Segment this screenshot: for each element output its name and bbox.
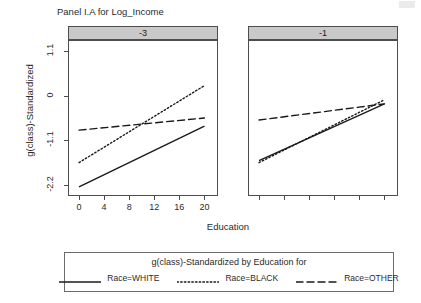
y-tick-label: 1.1 [45, 37, 55, 63]
series-line [79, 126, 204, 187]
x-axis-label: Education [168, 221, 288, 232]
panel-strip-header-2: -1 [248, 26, 398, 40]
legend-key-dotted [177, 273, 219, 283]
legend-key-dashed [296, 273, 338, 283]
x-tick-mark [154, 196, 155, 200]
panel-1: -3 [68, 26, 218, 196]
legend-item: Race=WHITE [59, 273, 159, 283]
panel-strip-label: -3 [139, 29, 147, 38]
x-tick-label: 0 [69, 202, 89, 212]
legend-label: Race=WHITE [107, 273, 159, 283]
legend: g(class)-Standardized by Education for R… [64, 252, 394, 292]
x-tick-label: 20 [194, 202, 214, 212]
panel-2: -1 [248, 26, 398, 196]
panel-strip-header-1: -3 [68, 26, 218, 40]
y-tick-label: -1.1 [45, 126, 55, 152]
x-tick-mark [384, 196, 385, 200]
legend-label: Race=BLACK [225, 273, 278, 283]
series-line [259, 104, 384, 161]
legend-item: Race=BLACK [177, 273, 278, 283]
legend-item: Race=OTHER [296, 273, 399, 283]
legend-items: Race=WHITERace=BLACKRace=OTHER [65, 273, 393, 283]
x-tick-mark [104, 196, 105, 200]
series-line [79, 86, 204, 163]
x-tick-mark [309, 196, 310, 200]
x-tick-label: 4 [94, 202, 114, 212]
x-tick-mark [334, 196, 335, 200]
x-tick-mark [79, 196, 80, 200]
plot-area-1 [68, 40, 218, 196]
x-tick-mark [179, 196, 180, 200]
x-tick-mark [284, 196, 285, 200]
x-tick-mark [359, 196, 360, 200]
x-tick-mark [204, 196, 205, 200]
series-line [259, 100, 384, 163]
legend-label: Race=OTHER [344, 273, 399, 283]
x-tick-label: 16 [169, 202, 189, 212]
panel-strip-label: -1 [319, 29, 327, 38]
x-tick-label: 8 [119, 202, 139, 212]
y-tick-label: 0 [45, 82, 55, 108]
x-tick-mark [129, 196, 130, 200]
plot-area-2 [248, 40, 398, 196]
y-tick-label: -2.2 [45, 171, 55, 197]
page-edge-artifact [399, 1, 415, 8]
chart-container: Panel I.A for Log_Income g(class)-Standa… [0, 0, 421, 303]
legend-key-solid [59, 273, 101, 283]
y-axis-label: g(class)-Standardized [24, 26, 35, 196]
legend-title: g(class)-Standardized by Education for [65, 257, 393, 267]
x-tick-mark [259, 196, 260, 200]
chart-title: Panel I.A for Log_Income [57, 6, 164, 17]
x-tick-label: 12 [144, 202, 164, 212]
